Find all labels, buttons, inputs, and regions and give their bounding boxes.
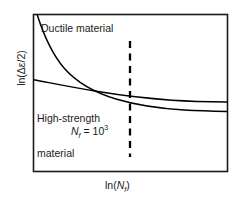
fatigue-strain-life-figure: Ductile material High-strength material … (0, 0, 244, 201)
y-axis-label-container: ln(Δε/2) (11, 31, 27, 105)
x-axis-label-prefix: ln( (105, 179, 117, 191)
x-axis-label-suffix: ) (126, 179, 130, 191)
high-strength-label-line2: material (37, 148, 100, 160)
transition-cycles-annotation: Nf = 103 (71, 124, 108, 140)
nf-variable: N (71, 125, 79, 137)
y-axis-label: ln(Δε/2) (16, 50, 28, 86)
nf-equals-ten: = 10 (81, 125, 105, 137)
ductile-curve-label: Ductile material (41, 23, 113, 35)
x-axis-label: ln(Nf) (105, 180, 130, 194)
high-strength-label-line1: High-strength (37, 113, 100, 125)
nf-exponent: 3 (104, 123, 108, 132)
